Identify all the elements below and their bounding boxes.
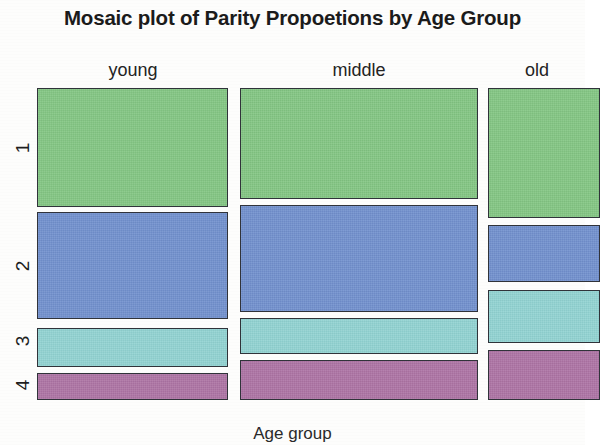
mosaic-tile-old-3 <box>488 290 600 343</box>
mosaic-tile-young-1 <box>37 88 228 207</box>
mosaic-tile-old-4 <box>488 350 600 400</box>
mosaic-tile-middle-4 <box>240 360 478 400</box>
mosaic-tile-middle-3 <box>240 318 478 354</box>
mosaic-tile-old-1 <box>488 88 600 218</box>
mosaic-tile-old-2 <box>488 225 600 282</box>
mosaic-tile-young-3 <box>37 328 228 367</box>
x-axis-label: Age group <box>0 424 585 444</box>
mosaic-tile-middle-1 <box>240 88 478 199</box>
mosaic-tile-middle-2 <box>240 205 478 312</box>
mosaic-tile-young-2 <box>37 212 228 319</box>
mosaic-tile-young-4 <box>37 373 228 400</box>
